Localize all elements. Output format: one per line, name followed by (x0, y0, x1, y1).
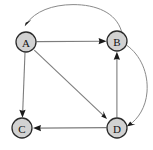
edge-b-to-d (127, 45, 148, 126)
node-b-circle[interactable] (107, 31, 127, 51)
node-b[interactable]: B (107, 31, 127, 51)
edge-a-to-c (19, 52, 25, 117)
node-d-circle[interactable] (107, 118, 127, 138)
node-a-circle[interactable] (16, 32, 36, 52)
edge-a-to-d (34, 50, 107, 119)
arrowhead-into-d-from-b (127, 122, 136, 127)
arrowhead-into-c-from-d (33, 125, 41, 131)
node-c[interactable]: C (12, 118, 32, 138)
node-c-circle[interactable] (12, 118, 32, 138)
node-a[interactable]: A (16, 32, 36, 52)
graph-canvas: A B C D (0, 0, 153, 150)
graph-figure: A B C D (0, 0, 153, 150)
edge-b-to-a (25, 5, 122, 32)
edge-a-to-b (37, 38, 107, 44)
arrowhead-into-b-from-a (99, 38, 107, 44)
edge-d-to-b (114, 52, 120, 118)
node-d[interactable]: D (107, 118, 127, 138)
edge-d-to-c (33, 125, 107, 131)
arrowhead-into-c-from-a (19, 110, 25, 118)
arrowhead-into-d-from-a (101, 111, 107, 119)
arrowhead-into-b-from-d (114, 52, 120, 60)
